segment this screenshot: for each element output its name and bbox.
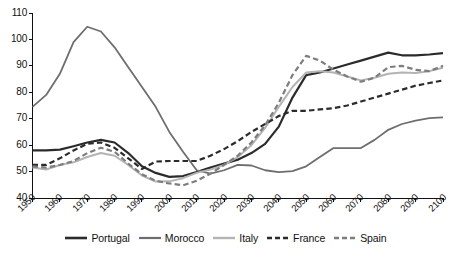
legend-label: Italy	[239, 232, 258, 244]
series-line-portugal	[33, 53, 444, 177]
legend-label: Portugal	[91, 232, 129, 244]
legend-swatch-morocco-icon	[139, 233, 161, 243]
legend-item-italy[interactable]: Italy	[213, 232, 258, 244]
series-line-morocco	[33, 27, 444, 174]
y-tick-label: 110	[1, 7, 27, 18]
y-tick-label: 60	[1, 139, 27, 150]
legend-label: France	[293, 232, 325, 244]
legend-swatch-france-icon	[267, 233, 289, 243]
y-tick-label: 100	[1, 33, 27, 44]
line-chart: 110100908070605040 195019601970198019902…	[0, 0, 452, 259]
axis-lines	[33, 13, 444, 198]
y-tick-label: 90	[1, 59, 27, 70]
y-tick-label: 50	[1, 165, 27, 176]
legend-item-portugal[interactable]: Portugal	[65, 232, 129, 244]
y-axis-ticks	[29, 13, 33, 198]
legend-item-morocco[interactable]: Morocco	[139, 232, 205, 244]
plot-area	[0, 0, 452, 259]
legend-item-spain[interactable]: Spain	[334, 232, 386, 244]
legend-item-france[interactable]: France	[267, 232, 325, 244]
legend-swatch-portugal-icon	[65, 233, 87, 243]
legend-label: Morocco	[165, 232, 205, 244]
legend-swatch-italy-icon	[213, 233, 235, 243]
chart-legend: PortugalMoroccoItalyFranceSpain	[0, 232, 452, 244]
legend-swatch-spain-icon	[334, 233, 356, 243]
legend-label: Spain	[360, 232, 386, 244]
y-tick-label: 70	[1, 112, 27, 123]
y-tick-label: 80	[1, 86, 27, 97]
